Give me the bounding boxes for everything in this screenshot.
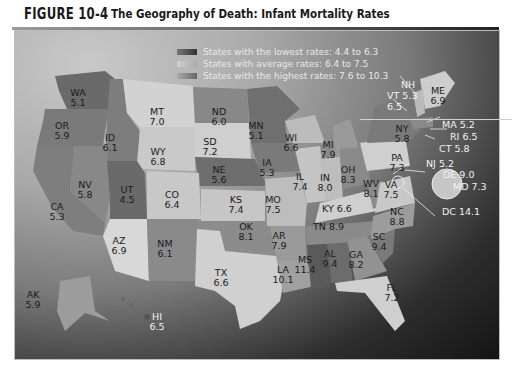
state-label-al: AL9.4 <box>322 249 337 269</box>
figure-title: FIGURE 10-4 The Geography of Death: Infa… <box>24 4 109 26</box>
state-label-wy: WY6.8 <box>150 147 165 167</box>
state-AK <box>57 276 110 331</box>
callout-de: DE 9.0 <box>443 169 474 180</box>
state-label-ny: NY5.8 <box>394 124 409 144</box>
state-label-mt: MT7.0 <box>149 107 164 127</box>
state-HI-island <box>129 303 133 307</box>
state-label-wa: WA5.1 <box>70 88 85 108</box>
state-label-me: ME6.9 <box>430 86 445 106</box>
state-label-va: VA7.5 <box>383 180 398 200</box>
state-label-mn: MN5.1 <box>248 121 263 141</box>
state-label-id: ID6.1 <box>102 133 117 153</box>
legend-label: States with the lowest rates: 4.4 to 6.3 <box>203 47 378 57</box>
callout-ma: MA 5.2 <box>442 119 475 130</box>
state-label-il: IL7.4 <box>292 172 307 192</box>
callout-dc: DC 14.1 <box>442 206 480 217</box>
state-OR <box>37 109 110 146</box>
figure-caption: The Geography of Death: Infant Mortality… <box>111 7 390 21</box>
state-label-ak: AK5.9 <box>25 290 40 310</box>
map-legend: States with the lowest rates: 4.4 to 6.3… <box>177 46 388 82</box>
state-label-ia: IA5.3 <box>259 158 274 178</box>
state-label-ms: MS11.4 <box>294 255 315 275</box>
ct-leader-line <box>425 135 435 139</box>
legend-item-lowest: States with the lowest rates: 4.4 to 6.3 <box>177 46 388 58</box>
legend-swatch-average <box>177 61 197 67</box>
state-label-tx: TX6.6 <box>213 268 228 288</box>
legend-item-highest: States with the highest rates: 7.6 to 10… <box>177 70 388 82</box>
callout-ri: RI 6.5 <box>450 131 478 142</box>
state-label-ar: AR7.9 <box>271 231 286 251</box>
state-label-nc: NC8.8 <box>389 207 404 227</box>
state-label-nv: NV5.8 <box>77 180 92 200</box>
state-label-oh: OH8.3 <box>340 165 355 185</box>
figure-number: FIGURE 10-4 <box>24 5 90 23</box>
callout-ct: CT 5.8 <box>439 143 470 154</box>
state-label-fl: FL7.2 <box>384 283 399 303</box>
state-label-wi: WI6.6 <box>283 133 298 153</box>
de-leader-line <box>405 170 425 172</box>
state-label-or: OR5.9 <box>54 121 69 141</box>
state-label-pa: PA7.3 <box>389 153 404 173</box>
legend-label: States with the highest rates: 7.6 to 10… <box>203 71 388 81</box>
legend-item-average: States with average rates: 6.4 to 7.5 <box>177 58 388 70</box>
state-label-tn: TN 8.9 <box>313 222 344 232</box>
state-HI-island <box>121 297 125 301</box>
state-label-mo: MO7.5 <box>265 195 281 215</box>
state-label-ok: OK8.1 <box>238 222 253 242</box>
state-label-ks: KS7.4 <box>228 195 243 215</box>
state-WY <box>137 127 195 171</box>
legend-swatch-highest <box>177 73 197 79</box>
state-label-wv: WV8.1 <box>363 179 379 199</box>
state-label-ut: UT4.5 <box>119 185 134 205</box>
state-label-nm: NM6.1 <box>157 239 172 259</box>
state-label-hi: HI6.5 <box>149 312 164 332</box>
state-label-vt: VT 5.3 <box>387 91 417 101</box>
state-label-az: AZ6.9 <box>111 236 126 256</box>
state-label-co: CO6.4 <box>164 190 179 210</box>
state-label-ca: CA5.3 <box>49 202 64 222</box>
state-label-mi: MI7.9 <box>320 140 335 160</box>
legend-label: States with average rates: 6.4 to 7.5 <box>203 59 368 69</box>
state-label-nh-rate: 6.5 <box>387 102 402 112</box>
legend-swatch-lowest <box>177 49 197 55</box>
state-NE <box>195 157 267 186</box>
callout-md: MD 7.3 <box>453 181 487 192</box>
state-label-sc: SC9.4 <box>371 232 386 252</box>
scan-artifact-line <box>360 119 512 120</box>
state-label-nd: ND6.0 <box>211 107 226 127</box>
state-label-sd: SD7.2 <box>202 137 217 157</box>
state-label-la: LA10.1 <box>272 265 293 285</box>
callout-nj: NJ 5.2 <box>426 158 454 169</box>
state-label-ne: NE5.6 <box>211 165 226 185</box>
state-label-ga: GA8.2 <box>348 250 363 270</box>
state-label-nh: NH <box>401 80 415 90</box>
state-label-in: IN8.0 <box>317 173 332 193</box>
state-label-ky: KY 6.6 <box>322 204 352 214</box>
